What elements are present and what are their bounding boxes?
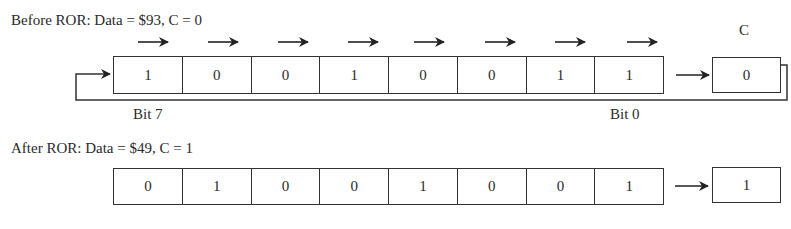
bit-cell: 0 [183, 57, 252, 93]
bit-cell: 1 [183, 169, 252, 204]
bit-cell: 1 [389, 169, 458, 204]
bit-cell: 0 [114, 169, 183, 204]
bit-cell: 0 [389, 57, 458, 93]
bit-cell: 0 [458, 169, 527, 204]
bit0-label: Bit 0 [610, 106, 640, 123]
carry-box-after: 1 [712, 167, 781, 203]
bit-cell: 0 [527, 169, 596, 204]
before-title: Before ROR: Data = $93, C = 0 [11, 12, 202, 29]
after-title: After ROR: Data = $49, C = 1 [11, 140, 193, 157]
bit-cell: 1 [595, 169, 663, 204]
carry-label: C [739, 22, 749, 39]
bit-cell: 1 [320, 57, 389, 93]
register-after: 0 1 0 0 1 0 0 1 [113, 168, 664, 205]
bit-cell: 0 [252, 57, 321, 93]
bit-cell: 0 [458, 57, 527, 93]
bit-cell: 0 [252, 169, 321, 204]
bit-cell: 1 [595, 57, 663, 93]
bit-cell: 1 [527, 57, 596, 93]
bit-cell: 1 [114, 57, 183, 93]
register-before: 1 0 0 1 0 0 1 1 [113, 56, 664, 94]
bit-cell: 0 [320, 169, 389, 204]
bit7-label: Bit 7 [133, 106, 163, 123]
carry-box-before: 0 [712, 57, 781, 93]
